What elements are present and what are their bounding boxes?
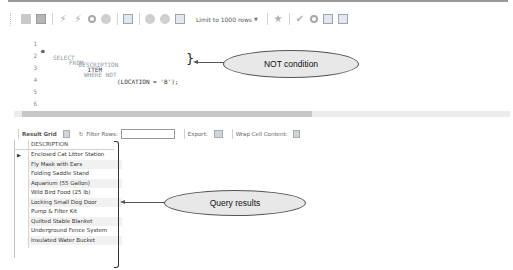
editor-line: 4 [0, 69, 14, 81]
table-row[interactable]: Quilted Stable Blanket [29, 217, 122, 227]
invisible-chars-icon[interactable] [323, 14, 333, 24]
filter-rows-label: Filter Rows: [86, 131, 118, 137]
execute-icon[interactable]: ⚡ [58, 14, 68, 24]
toolbar-grip[interactable] [10, 13, 13, 26]
editor-line: 2 FROM ITEM [0, 45, 14, 57]
editor-line: 5 [0, 81, 14, 93]
wrap-icon[interactable] [338, 14, 348, 24]
table-row[interactable]: Aquarium (55 Gallon) [29, 179, 122, 189]
line-number: 4 [27, 76, 37, 83]
sql-text: (LOCATION = 'B'); [117, 78, 178, 85]
toolbar-separator [139, 13, 140, 25]
table-row[interactable]: Locking Small Dog Door [29, 198, 122, 208]
arrow-line [197, 62, 224, 63]
table-row[interactable]: Enclosed Cat Litter Station [29, 150, 122, 160]
table-row[interactable]: Insulated Water Bucket [29, 236, 122, 246]
toggle-results-icon[interactable] [123, 14, 133, 24]
grid-view-icon[interactable] [63, 130, 70, 138]
explain-icon[interactable] [88, 15, 96, 23]
result-grid[interactable]: DESCRIPTION ▶ Enclosed Cat Litter Statio… [14, 140, 117, 270]
toolbar-separator [184, 129, 185, 139]
autocommit-icon[interactable] [175, 14, 185, 24]
column-header-label: DESCRIPTION [31, 141, 68, 147]
query-results-callout: Query results [164, 190, 306, 216]
toolbar-separator [117, 13, 118, 25]
table-row[interactable]: Folding Saddle Stand [29, 169, 122, 179]
toolbar-separator [52, 13, 53, 25]
table-row[interactable]: Underground Fence System [29, 226, 122, 236]
result-grid-tab[interactable]: Result Grid [22, 131, 57, 137]
results-toolbar: Result Grid ↻ Filter Rows: Export: Wrap … [15, 128, 306, 140]
line-number: 1 [27, 40, 37, 47]
limit-rows-select[interactable]: Limit to 1000 rows [196, 16, 254, 23]
save-icon[interactable] [36, 14, 46, 24]
arrow-line [124, 202, 165, 203]
export-label: Export: [188, 131, 208, 137]
open-folder-icon[interactable] [21, 14, 31, 24]
scrollbar-thumb[interactable] [22, 111, 312, 117]
stop-icon[interactable] [101, 14, 111, 24]
toolbar-separator [232, 129, 233, 139]
statement-marker-icon: ● [41, 47, 45, 54]
table-row[interactable]: Wild Bird Food (25 lb) [29, 188, 122, 198]
sql-editor-toolbar: ⚡ ⚡ Limit to 1000 rows ▼ ★ ✔ [10, 12, 353, 26]
horizontal-scrollbar[interactable] [14, 111, 510, 117]
sql-keyword: FROM [69, 59, 83, 66]
editor-line: 3 WHERE NOT (LOCATION = 'B'); [0, 57, 14, 69]
toolbar-separator [267, 13, 268, 25]
editor-line: 1 ● SELECT DESCRIPTION [0, 33, 14, 45]
wrap-cell-icon[interactable] [293, 130, 300, 138]
execute-current-icon[interactable]: ⚡ [73, 14, 83, 24]
line-number: 3 [27, 64, 37, 71]
beautify-icon[interactable]: ★ [273, 14, 283, 24]
toolbar-separator [18, 129, 19, 139]
table-row[interactable]: Fly Mask with Ears [29, 160, 122, 170]
column-header-description[interactable]: DESCRIPTION [14, 140, 114, 150]
search-icon[interactable] [310, 15, 318, 23]
toolbar-separator [289, 13, 290, 25]
editor-line: 6 [0, 93, 14, 105]
rollback-icon[interactable] [160, 14, 170, 24]
table-row[interactable]: Pump & Filter Kit [29, 207, 122, 217]
refresh-icon[interactable]: ↻ [79, 131, 84, 137]
export-icon[interactable] [214, 130, 223, 138]
current-row-icon: ▶ [17, 152, 21, 158]
filter-rows-input[interactable] [121, 129, 175, 139]
commit-icon[interactable] [145, 14, 155, 24]
chevron-down-icon[interactable]: ▼ [254, 16, 258, 22]
sql-keyword: WHERE NOT [84, 71, 117, 78]
wrap-cell-label: Wrap Cell Content: [236, 131, 288, 137]
not-condition-callout: NOT condition [223, 50, 359, 78]
results-bracket [114, 141, 119, 268]
top-border [8, 0, 508, 2]
find-icon[interactable]: ✔ [295, 14, 305, 24]
line-number: 6 [27, 100, 37, 107]
line-number: 2 [27, 52, 37, 59]
line-number: 5 [27, 88, 37, 95]
